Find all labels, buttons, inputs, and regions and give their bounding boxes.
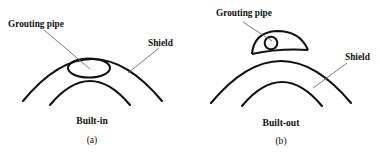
- shield-label-b: Shield: [345, 52, 371, 62]
- grouting-pipe-label-b: Grouting pipe: [216, 8, 272, 18]
- shield-leader-a: [128, 48, 159, 73]
- grouting-pipe-leader-a: [44, 30, 90, 69]
- panel-subcaption-a: (a): [87, 134, 98, 146]
- panel-a: Grouting pipe Shield Built-in (a): [8, 19, 174, 146]
- panel-caption-a: Built-in: [76, 115, 108, 126]
- shield-arc-a: [23, 59, 162, 101]
- figure-root: Grouting pipe Shield Built-in (a) Grouti…: [0, 0, 380, 152]
- lining-arc-a: [50, 81, 130, 105]
- shield-leader-b: [313, 63, 347, 88]
- shield-grouting-diagram: Grouting pipe Shield Built-in (a) Grouti…: [0, 0, 380, 152]
- lining-arc-b: [242, 82, 322, 106]
- grouting-pipe-circle-b: [265, 37, 278, 50]
- grouting-pipe-housing-base-b: [252, 50, 308, 55]
- panel-caption-b: Built-out: [263, 117, 301, 128]
- grouting-pipe-label-a: Grouting pipe: [8, 19, 64, 29]
- shield-label-a: Shield: [148, 38, 174, 48]
- panel-subcaption-b: (b): [275, 135, 286, 147]
- panel-b: Grouting pipe Shield Built-out (b): [211, 8, 371, 147]
